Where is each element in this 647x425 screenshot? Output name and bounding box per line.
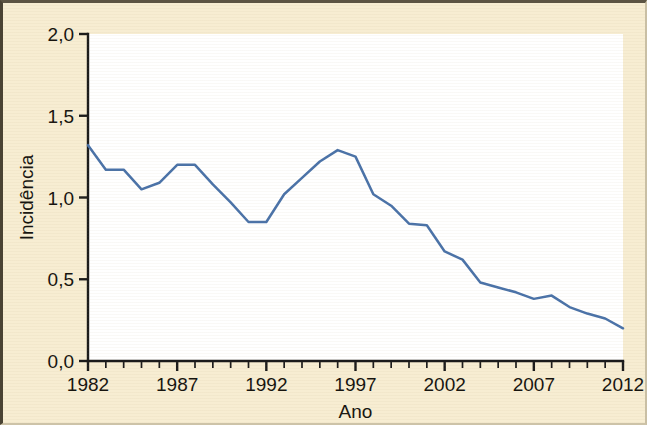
y-tick-label: 0,0 [48, 351, 74, 372]
y-tick-label: 1,5 [48, 106, 74, 127]
line-chart: 0,00,51,01,52,0 198219871992199720022007… [3, 3, 645, 423]
plot-area-background [88, 34, 623, 361]
x-tick-label: 2007 [513, 374, 555, 395]
x-tick-label: 1982 [67, 374, 109, 395]
x-axis-tick-labels: 1982198719921997200220072012 [67, 374, 644, 395]
y-tick-label: 1,0 [48, 188, 74, 209]
y-tick-label: 0,5 [48, 269, 74, 290]
y-tick-label: 2,0 [48, 24, 74, 45]
y-axis-tick-labels: 0,00,51,01,52,0 [48, 24, 74, 372]
y-axis-title: Incidência [16, 154, 37, 240]
x-axis-minor-ticks [88, 361, 623, 371]
x-tick-label: 1987 [156, 374, 198, 395]
chart-canvas: 0,00,51,01,52,0 198219871992199720022007… [3, 3, 647, 425]
x-tick-label: 2002 [424, 374, 466, 395]
x-tick-label: 1997 [334, 374, 376, 395]
figure-frame: 0,00,51,01,52,0 198219871992199720022007… [0, 0, 647, 425]
y-axis-ticks [79, 34, 88, 361]
x-tick-label: 2012 [602, 374, 644, 395]
x-axis-title: Ano [339, 401, 373, 422]
x-tick-label: 1992 [245, 374, 287, 395]
